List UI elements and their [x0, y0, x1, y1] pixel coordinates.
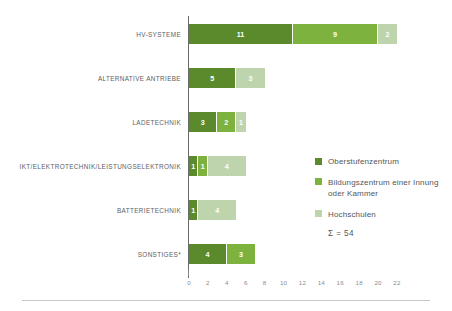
bar-segment-value: 2: [224, 118, 228, 127]
bar-segment-value: 4: [215, 206, 219, 215]
chart-legend: Oberstufenzentrum Bildungszentrum einer …: [315, 156, 447, 238]
bar-segment-value: 1: [191, 206, 195, 215]
x-axis-tick-label: 16: [337, 279, 344, 286]
bar-segment[interactable]: 1: [198, 156, 207, 176]
plot-area: HV-SYSTEME1192ALTERNATIVE ANTRIEBE53LADE…: [189, 16, 397, 278]
legend-item-bildungszentrum[interactable]: Bildungszentrum einer Innung oder Kammer: [315, 177, 447, 200]
bar-segment[interactable]: 4: [208, 156, 246, 176]
legend-item-oberstufenzentrum[interactable]: Oberstufenzentrum: [315, 156, 447, 168]
category-label: ALTERNATIVE ANTRIEBE: [98, 75, 181, 82]
category-label: SONSTIGES*: [138, 251, 181, 258]
stacked-bar[interactable]: 43: [189, 244, 255, 264]
bar-segment-value: 1: [239, 118, 243, 127]
x-axis-tick-label: 10: [280, 279, 287, 286]
x-axis-tick-label: 12: [299, 279, 306, 286]
stacked-bar[interactable]: 114: [189, 156, 246, 176]
stacked-bar[interactable]: 1192: [189, 24, 397, 44]
bar-segment-value: 1: [201, 162, 205, 171]
bar-segment-value: 9: [333, 30, 337, 39]
x-axis-tick-label: 6: [244, 279, 248, 286]
legend-label: Bildungszentrum einer Innung oder Kammer: [328, 177, 447, 200]
bar-segment-value: 3: [239, 250, 243, 259]
stacked-bar[interactable]: 321: [189, 112, 246, 132]
bar-segment[interactable]: 11: [189, 24, 293, 44]
stacked-bar[interactable]: 14: [189, 200, 236, 220]
x-axis-tick-label: 20: [374, 279, 381, 286]
category-label: HV-SYSTEME: [136, 31, 181, 38]
bar-segment-value: 4: [225, 162, 229, 171]
category-label: LADETECHNIK: [132, 119, 181, 126]
bar-segment-value: 1: [191, 162, 195, 171]
sum-annotation: Σ = 54: [328, 229, 447, 238]
bar-segment[interactable]: 1: [236, 112, 245, 132]
x-axis-tick-label: 4: [225, 279, 229, 286]
x-axis-tick-label: 2: [206, 279, 210, 286]
x-axis: 0246810121416182022: [189, 279, 397, 293]
bar-row: LADETECHNIK321: [189, 112, 397, 132]
stacked-bar[interactable]: 53: [189, 68, 265, 88]
legend-label: Hochschulen: [328, 209, 376, 221]
bar-segment[interactable]: 9: [293, 24, 378, 44]
bar-segment-value: 5: [210, 74, 214, 83]
bar-segment[interactable]: 3: [236, 68, 264, 88]
bar-segment-value: 2: [386, 30, 390, 39]
bar-segment[interactable]: 4: [189, 244, 227, 264]
x-axis-tick-label: 14: [318, 279, 325, 286]
bar-segment[interactable]: 3: [189, 112, 217, 132]
bar-segment[interactable]: 1: [189, 156, 198, 176]
bar-segment[interactable]: 4: [198, 200, 236, 220]
bar-segment[interactable]: 2: [378, 24, 397, 44]
stacked-bar-chart: HV-SYSTEME1192ALTERNATIVE ANTRIEBE53LADE…: [0, 0, 452, 311]
legend-label: Oberstufenzentrum: [328, 156, 399, 168]
x-axis-tick-label: 8: [263, 279, 267, 286]
category-label: IKT/ELEKTROTECHNIK/LEISTUNGSELEKTRONIK: [20, 163, 181, 170]
bar-segment[interactable]: 1: [189, 200, 198, 220]
bar-segment-value: 3: [201, 118, 205, 127]
legend-swatch-icon: [315, 158, 322, 165]
bar-segment[interactable]: 5: [189, 68, 236, 88]
legend-swatch-icon: [315, 178, 322, 185]
bar-segment-value: 3: [248, 74, 252, 83]
legend-item-hochschulen[interactable]: Hochschulen: [315, 209, 447, 221]
bar-segment-value: 11: [237, 30, 245, 39]
bar-segment-value: 4: [205, 250, 209, 259]
x-axis-tick-label: 22: [393, 279, 400, 286]
legend-swatch-icon: [315, 210, 322, 217]
bar-row: SONSTIGES*43: [189, 244, 397, 264]
x-axis-tick-label: 0: [187, 279, 191, 286]
bottom-divider: [22, 300, 430, 301]
category-label: BATTERIETECHNIK: [117, 207, 181, 214]
bar-segment[interactable]: 3: [227, 244, 255, 264]
bar-row: HV-SYSTEME1192: [189, 24, 397, 44]
bar-row: ALTERNATIVE ANTRIEBE53: [189, 68, 397, 88]
bar-segment[interactable]: 2: [217, 112, 236, 132]
x-axis-tick-label: 18: [356, 279, 363, 286]
